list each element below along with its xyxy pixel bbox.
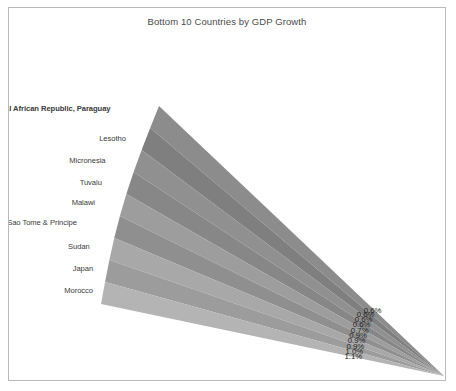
category-label: Sao Tome & Principe: [8, 218, 77, 227]
category-label: Micronesia: [69, 156, 105, 165]
category-label: Lesotho: [99, 134, 126, 143]
category-label: Japan: [73, 264, 93, 273]
value-label-overlap: 0.6%: [364, 305, 382, 314]
cone-chart-plot: [9, 8, 446, 381]
category-label: Malawi: [72, 198, 95, 207]
category-label: Central African Republic, Paraguay: [8, 104, 111, 113]
category-label: Morocco: [64, 286, 93, 295]
cone-band-group: [101, 106, 444, 376]
chart-frame: Bottom 10 Countries by GDP Growth Centra…: [8, 7, 446, 381]
category-label: Sudan: [68, 242, 90, 251]
value-label: 1.1%: [344, 352, 362, 361]
category-label: Tuvalu: [80, 178, 102, 187]
